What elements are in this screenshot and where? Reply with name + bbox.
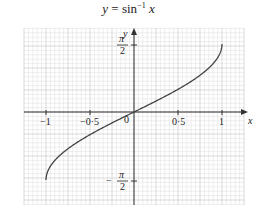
- plot-area: x y 0 −1 −0·5 0·5 1 π 2 − π 2: [0, 0, 257, 214]
- svg-text:2: 2: [120, 181, 125, 192]
- y-axis-arrow-icon: [131, 28, 137, 35]
- x-tick-label-neg05: −0·5: [80, 116, 99, 127]
- x-axis: [24, 109, 248, 115]
- origin-label: 0: [124, 114, 129, 125]
- x-tick-label-neg1: −1: [40, 116, 51, 127]
- svg-text:−: −: [106, 175, 112, 186]
- x-axis-arrow-icon: [241, 109, 248, 115]
- x-tick-label-1: 1: [219, 116, 224, 127]
- y-tick-label-neg-pi-over-2: − π 2: [106, 169, 128, 192]
- x-axis-label: x: [247, 115, 253, 126]
- svg-text:π: π: [119, 169, 125, 180]
- svg-text:2: 2: [120, 45, 125, 56]
- x-tick-label-05: 0·5: [172, 116, 185, 127]
